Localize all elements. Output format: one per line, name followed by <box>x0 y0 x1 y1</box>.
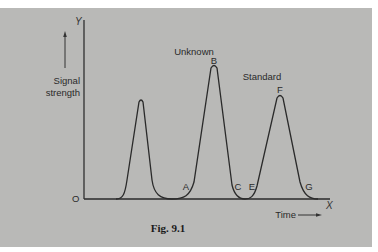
x-axis-letter: X <box>325 200 333 211</box>
figure-caption: Fig. 9.1 <box>151 222 186 234</box>
origin-label: O <box>72 193 79 204</box>
chromatogram-curve <box>116 66 318 200</box>
arrow-right-icon <box>316 213 322 217</box>
point-b-label: B <box>211 55 217 66</box>
point-a-label: A <box>183 181 190 192</box>
point-g-label: G <box>305 181 312 192</box>
x-label: Time <box>275 209 296 220</box>
standard-label: Standard <box>243 71 282 82</box>
point-e-label: E <box>249 181 255 192</box>
unknown-label: Unknown <box>174 46 214 57</box>
y-label-line1: Signal <box>54 75 80 86</box>
y-label-line2: strength <box>46 87 80 98</box>
y-axis-letter: Y <box>75 16 83 27</box>
point-f-label: F <box>277 84 283 95</box>
arrow-up-icon <box>63 31 67 37</box>
chromatogram-chart: Y X O Signal strength Time Unknown B Sta… <box>0 0 378 252</box>
point-c-label: C <box>235 181 242 192</box>
